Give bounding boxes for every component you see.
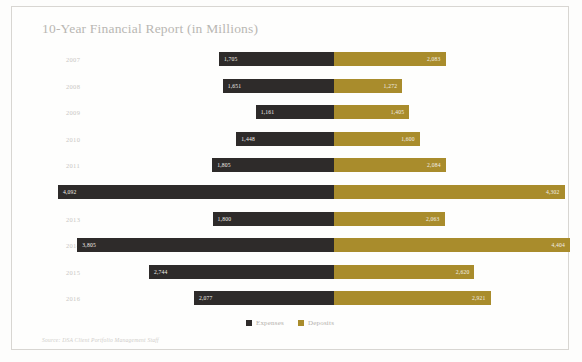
chart-row: 20101,4481,600 <box>34 131 570 147</box>
report-card: 10-Year Financial Report (in Millions) 2… <box>11 6 569 350</box>
bar-value-deposits: 4,404 <box>551 242 565 248</box>
bar-expenses[interactable]: 1,800 <box>213 212 334 226</box>
bar-value-expenses: 1,800 <box>218 216 232 222</box>
bar-expenses[interactable]: 1,651 <box>223 79 334 93</box>
chart-row: 20111,8052,084 <box>34 157 570 173</box>
bar-value-deposits: 2,084 <box>427 162 441 168</box>
bar-expenses[interactable]: 2,077 <box>194 291 334 305</box>
chart-page: 10-Year Financial Report (in Millions) 2… <box>0 0 582 362</box>
bar-deposits[interactable]: 2,921 <box>334 291 491 305</box>
legend-item-deposits: Deposits <box>298 319 334 327</box>
bar-expenses[interactable]: 1,805 <box>212 158 334 172</box>
chart-row: 20143,8054,404 <box>34 237 570 253</box>
legend-label-expenses: Expenses <box>256 319 284 327</box>
bar-group: 1,1611,405 <box>34 104 570 120</box>
bar-expenses[interactable]: 3,805 <box>77 238 334 252</box>
bar-deposits[interactable]: 1,405 <box>334 105 409 119</box>
bar-value-deposits: 4,302 <box>546 189 560 195</box>
bar-value-expenses: 1,705 <box>224 56 238 62</box>
bar-deposits[interactable]: 2,620 <box>334 265 474 279</box>
legend-swatch-expenses <box>246 320 252 326</box>
source-note: Source: DSA Client Portfolio Management … <box>42 337 159 343</box>
chart-row: 20124,0924,302 <box>34 184 570 200</box>
bar-group: 2,7442,620 <box>34 264 570 280</box>
chart-row: 20091,1611,405 <box>34 104 570 120</box>
bar-group: 4,0924,302 <box>34 184 570 200</box>
bar-deposits[interactable]: 2,063 <box>334 212 445 226</box>
bar-value-deposits: 2,921 <box>472 295 486 301</box>
bar-value-deposits: 2,083 <box>427 56 441 62</box>
bar-value-expenses: 1,805 <box>217 162 231 168</box>
bar-group: 1,4481,600 <box>34 131 570 147</box>
bar-value-deposits: 2,063 <box>426 216 440 222</box>
bar-value-expenses: 1,651 <box>228 83 242 89</box>
bar-value-expenses: 1,161 <box>261 109 275 115</box>
bar-value-deposits: 1,600 <box>401 136 415 142</box>
bar-deposits[interactable]: 4,302 <box>334 185 565 199</box>
bar-value-deposits: 2,620 <box>456 269 470 275</box>
bar-expenses[interactable]: 1,448 <box>236 132 334 146</box>
chart-row: 20152,7442,620 <box>34 264 570 280</box>
chart-legend: Expenses Deposits <box>12 319 568 327</box>
bar-expenses[interactable]: 1,705 <box>219 52 334 66</box>
page-title: 10-Year Financial Report (in Millions) <box>42 21 258 37</box>
bar-deposits[interactable]: 1,600 <box>334 132 420 146</box>
bar-group: 1,8002,063 <box>34 211 570 227</box>
bar-value-deposits: 1,272 <box>384 83 398 89</box>
bar-group: 3,8054,404 <box>34 237 570 253</box>
chart-plot-area: 20071,7052,08320081,6511,27220091,1611,4… <box>34 49 570 317</box>
bar-group: 2,0772,921 <box>34 290 570 306</box>
legend-label-deposits: Deposits <box>308 319 334 327</box>
chart-row: 20162,0772,921 <box>34 290 570 306</box>
bar-value-expenses: 2,077 <box>199 295 213 301</box>
legend-item-expenses: Expenses <box>246 319 284 327</box>
bar-deposits[interactable]: 4,404 <box>334 238 570 252</box>
bar-group: 1,7052,083 <box>34 51 570 67</box>
chart-row: 20081,6511,272 <box>34 78 570 94</box>
chart-row: 20131,8002,063 <box>34 211 570 227</box>
chart-row: 20071,7052,083 <box>34 51 570 67</box>
bar-value-deposits: 1,405 <box>391 109 405 115</box>
bar-deposits[interactable]: 2,084 <box>334 158 446 172</box>
bar-expenses[interactable]: 1,161 <box>256 105 334 119</box>
bar-group: 1,6511,272 <box>34 78 570 94</box>
bar-expenses[interactable]: 4,092 <box>58 185 334 199</box>
bar-deposits[interactable]: 1,272 <box>334 79 402 93</box>
bar-deposits[interactable]: 2,083 <box>334 52 446 66</box>
bar-value-expenses: 2,744 <box>154 269 168 275</box>
legend-swatch-deposits <box>298 320 304 326</box>
bar-expenses[interactable]: 2,744 <box>149 265 334 279</box>
bar-value-expenses: 4,092 <box>63 189 77 195</box>
bar-group: 1,8052,084 <box>34 157 570 173</box>
bar-value-expenses: 1,448 <box>241 136 255 142</box>
bar-value-expenses: 3,805 <box>82 242 96 248</box>
